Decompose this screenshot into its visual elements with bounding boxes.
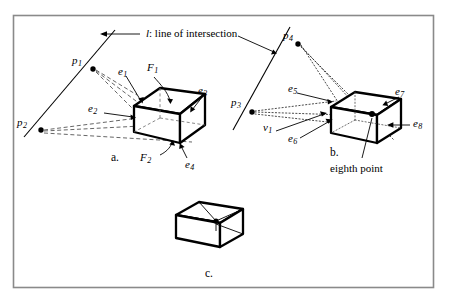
point-p2-dot	[38, 127, 43, 132]
point-p4-dot	[295, 41, 300, 46]
box-c-center-dot	[213, 218, 218, 223]
panel-label-c: c.	[205, 268, 213, 280]
label-e8: e8	[413, 118, 422, 131]
label-e2: e2	[88, 103, 97, 116]
label-p3-sub: 3	[237, 101, 241, 110]
label-p3: p3	[231, 97, 241, 110]
label-p4-sub: 4	[289, 34, 293, 43]
label-e1: e1	[118, 66, 127, 79]
label-p1-base: p	[72, 54, 78, 66]
label-e5: e5	[288, 83, 297, 96]
panel-label-b: b.	[330, 147, 339, 159]
label-e2-sub: 2	[93, 107, 97, 116]
label-e3-sub: 3	[203, 89, 207, 98]
label-e6-sub: 6	[293, 137, 297, 146]
label-v1: v1	[263, 122, 272, 135]
label-p3-base: p	[231, 96, 237, 108]
label-p1-sub: 1	[78, 59, 82, 68]
label-p2: p2	[17, 117, 27, 130]
label-p2-base: p	[17, 116, 23, 128]
caption-text: : line of intersection	[149, 27, 237, 39]
label-f1-sub: 1	[154, 66, 158, 75]
label-p2-sub: 2	[23, 121, 27, 130]
label-e5-sub: 5	[293, 87, 297, 96]
label-e7-sub: 7	[400, 90, 404, 99]
figure-container: l: line of intersection p1 p2 e1 F1 e3 e…	[0, 0, 449, 302]
panel-label-a: a.	[111, 152, 119, 164]
label-f2-sub: 2	[147, 156, 151, 165]
label-eighth-point: eighth point	[330, 163, 383, 174]
label-v1-sub: 1	[268, 126, 272, 135]
line-of-intersection-caption: l: line of intersection	[146, 28, 237, 39]
label-e6: e6	[288, 133, 297, 146]
label-f1-base: F	[147, 61, 154, 73]
label-f2-base: F	[140, 151, 147, 163]
label-e4-sub: 4	[190, 163, 194, 172]
eighth-point-dot	[369, 111, 375, 117]
label-p4: p4	[283, 30, 293, 43]
point-p3-dot	[249, 109, 254, 114]
label-e3: e3	[198, 85, 207, 98]
label-f2: F2	[140, 152, 151, 165]
label-e7: e7	[395, 86, 404, 99]
label-e4: e4	[185, 159, 194, 172]
label-p4-base: p	[283, 29, 289, 41]
label-p1: p1	[72, 55, 82, 68]
label-f1: F1	[147, 62, 158, 75]
point-p1-dot	[90, 66, 95, 71]
figure-drawing	[0, 0, 449, 302]
label-e1-sub: 1	[123, 70, 127, 79]
label-e8-sub: 8	[418, 122, 422, 131]
